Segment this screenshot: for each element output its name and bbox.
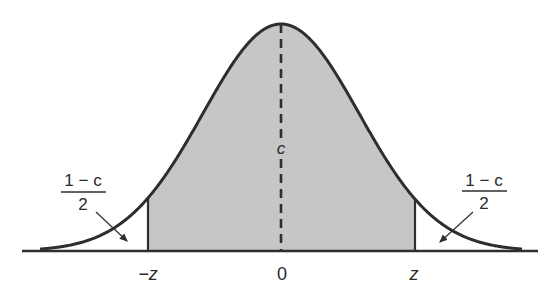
left-tail-label: 1 − c 2: [61, 171, 106, 214]
right-tail-denominator: 2: [479, 194, 488, 213]
center-area-label: c: [277, 139, 286, 158]
right-tail-numerator: 1 − c: [465, 171, 503, 190]
right-tail-label: 1 − c 2: [462, 171, 507, 213]
axis-label-neg-z: −z: [138, 264, 158, 284]
normal-curve-diagram: c 1 − c 2 1 − c 2 −z 0 z: [0, 0, 553, 302]
left-tail-denominator: 2: [78, 195, 87, 214]
axis-label-z: z: [409, 264, 419, 284]
left-tail-numerator: 1 − c: [64, 171, 102, 190]
axis-label-zero: 0: [277, 264, 287, 284]
